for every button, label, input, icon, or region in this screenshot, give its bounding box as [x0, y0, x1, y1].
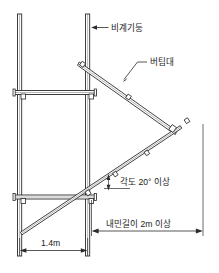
brace-label: 버팀대 — [150, 56, 174, 67]
vertical-post-right — [86, 14, 90, 256]
drawing-background — [0, 0, 219, 273]
scaffold-drawing-canvas: 비계기둥 버팀대 각도 20° 이상 내민길 — [0, 0, 219, 273]
post-label: 비계기둥 — [111, 22, 143, 33]
scaffold-diagram: 비계기둥 버팀대 각도 20° 이상 내민길 — [0, 0, 219, 273]
cantilever-label: 내민길이 2m 이상 — [106, 219, 171, 229]
vertical-post-left — [18, 14, 22, 256]
angle-label: 각도 20° 이상 — [120, 176, 170, 187]
bay-width-label: 1.4m — [41, 238, 60, 248]
